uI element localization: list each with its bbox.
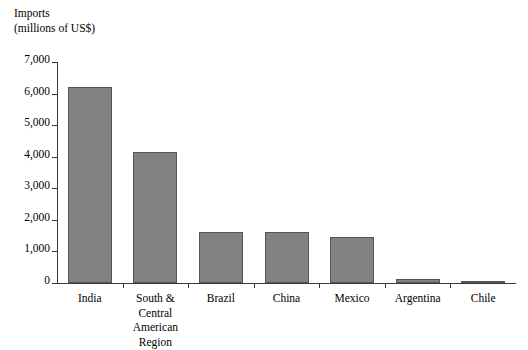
x-axis-tick-mark — [123, 283, 124, 288]
y-axis-tick-label: 0 — [44, 275, 50, 287]
category-label-line: Argentina — [385, 291, 451, 306]
x-axis-line — [57, 283, 516, 284]
category-label-line: Chile — [450, 291, 516, 306]
x-axis-category-label: Brazil — [188, 291, 254, 306]
y-axis-line — [57, 62, 58, 283]
bar — [330, 237, 374, 283]
bar — [68, 87, 112, 283]
x-axis-tick-mark — [188, 283, 189, 288]
x-axis-category-label: Chile — [450, 291, 516, 306]
y-axis-tick-mark — [52, 251, 57, 252]
bar — [396, 279, 440, 283]
y-axis-tick-mark — [52, 188, 57, 189]
y-axis-tick-mark — [52, 94, 57, 95]
plot-area: 01,0002,0003,0004,0005,0006,0007,000 — [57, 62, 516, 283]
category-label-line: American — [123, 320, 189, 335]
bar — [265, 232, 309, 283]
x-axis-category-label: China — [254, 291, 320, 306]
chart-axis-title: Imports (millions of US$) — [14, 6, 95, 35]
category-label-line: China — [254, 291, 320, 306]
x-axis-tick-mark — [450, 283, 451, 288]
x-axis-category-label: Argentina — [385, 291, 451, 306]
x-axis-category-label: Mexico — [319, 291, 385, 306]
y-axis-tick-label: 3,000 — [24, 180, 50, 192]
x-axis-category-label: India — [57, 291, 123, 306]
y-axis-tick-label: 7,000 — [24, 54, 50, 66]
category-label-line: South & — [123, 291, 189, 306]
category-label-line: India — [57, 291, 123, 306]
category-label-line: Mexico — [319, 291, 385, 306]
x-axis-tick-mark — [319, 283, 320, 288]
y-axis-tick-mark — [52, 283, 57, 284]
chart-subtitle: (millions of US$) — [14, 21, 95, 36]
category-label-line: Central — [123, 306, 189, 321]
x-axis-tick-mark — [385, 283, 386, 288]
y-axis-tick-label: 2,000 — [24, 212, 50, 224]
y-axis-tick-mark — [52, 125, 57, 126]
bar — [133, 152, 177, 283]
y-axis-tick-mark — [52, 62, 57, 63]
x-axis-category-label: South &CentralAmericanRegion — [123, 291, 189, 349]
y-axis-tick-label: 5,000 — [24, 117, 50, 129]
bar — [461, 281, 505, 283]
x-axis-tick-mark — [254, 283, 255, 288]
y-axis-tick-label: 6,000 — [24, 86, 50, 98]
y-axis-tick-mark — [52, 157, 57, 158]
bar — [199, 232, 243, 283]
bar-chart: Imports (millions of US$) 01,0002,0003,0… — [0, 0, 528, 350]
chart-title: Imports — [14, 6, 95, 21]
y-axis-tick-label: 4,000 — [24, 149, 50, 161]
category-label-line: Region — [123, 335, 189, 350]
y-axis-tick-label: 1,000 — [24, 243, 50, 255]
category-label-line: Brazil — [188, 291, 254, 306]
y-axis-tick-mark — [52, 220, 57, 221]
